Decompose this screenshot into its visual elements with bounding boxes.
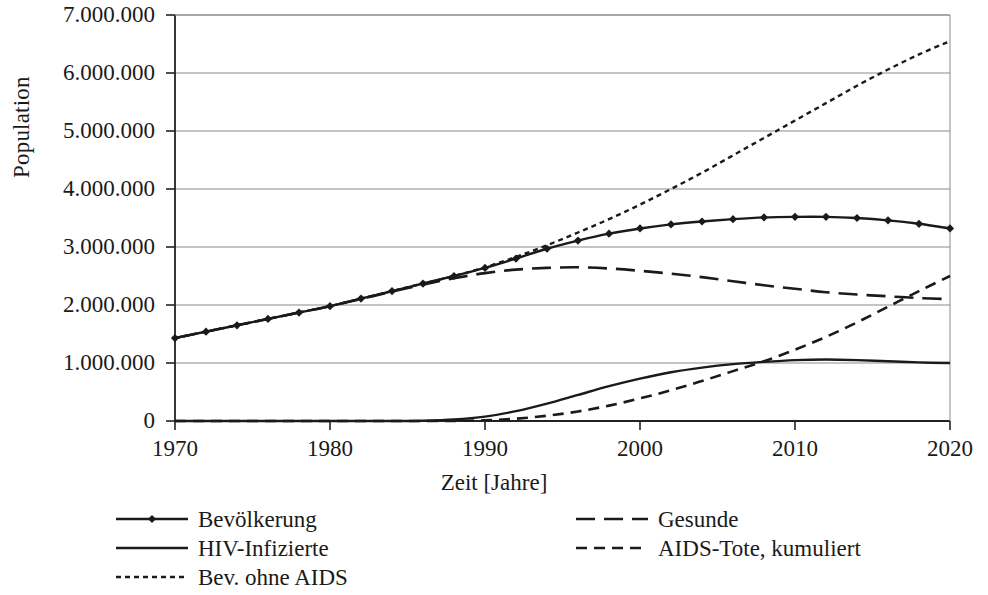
data-series-layer: [171, 41, 954, 421]
legend-label: HIV-Infizierte: [198, 537, 329, 560]
data-point-marker: [946, 224, 954, 232]
legend-item[interactable]: Gesunde: [575, 506, 738, 532]
axis-ticks: [166, 15, 950, 430]
legend-swatch-dashed-long-icon: [575, 512, 649, 526]
legend-item[interactable]: HIV-Infizierte: [115, 535, 329, 561]
x-axis-title: Zeit [Jahre]: [0, 470, 988, 496]
legend-swatch-dashed-icon: [575, 541, 649, 555]
legend-label: Bev. ohne AIDS: [198, 566, 348, 589]
series-line-bev-lkerung: [175, 217, 950, 338]
series-line-hiv-infizierte: [175, 360, 950, 422]
data-point-marker: [915, 220, 923, 228]
data-point-marker: [791, 213, 799, 221]
data-point-marker: [853, 214, 861, 222]
legend-swatch-solid-icon: [115, 541, 189, 555]
data-point-marker: [884, 216, 892, 224]
legend-label: Bevölkerung: [198, 508, 317, 531]
data-point-marker: [698, 217, 706, 225]
data-point-marker: [760, 213, 768, 221]
series-line-gesunde: [175, 267, 950, 338]
legend-label: AIDS-Tote, kumuliert: [658, 537, 861, 560]
data-point-marker: [729, 215, 737, 223]
data-point-marker: [667, 220, 675, 228]
legend-item[interactable]: Bevölkerung: [115, 506, 317, 532]
legend-item[interactable]: Bev. ohne AIDS: [115, 564, 348, 590]
plot-area: [0, 0, 988, 460]
series-line-bev-ohne-aids: [175, 41, 950, 338]
legend-swatch-dotted-icon: [115, 570, 189, 584]
legend-item[interactable]: AIDS-Tote, kumuliert: [575, 535, 861, 561]
legend-swatch-solid-marker-icon: [115, 512, 189, 526]
data-point-marker: [636, 224, 644, 232]
chart-legend: BevölkerungHIV-InfizierteBev. ohne AIDSG…: [0, 506, 988, 595]
legend-label: Gesunde: [658, 508, 738, 531]
data-point-marker: [822, 213, 830, 221]
data-point-marker: [574, 237, 582, 245]
data-point-marker: [605, 230, 613, 238]
chart-figure: Population 01.000.0002.000.0003.000.0004…: [0, 0, 988, 595]
gridlines: [175, 15, 950, 363]
